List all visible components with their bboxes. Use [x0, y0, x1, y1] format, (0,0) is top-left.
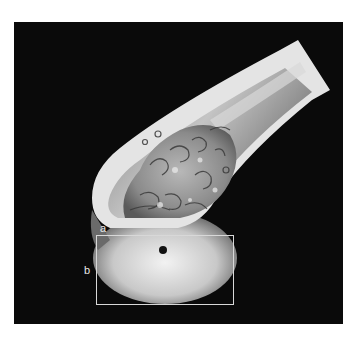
label-a: a	[100, 223, 106, 234]
label-b: b	[84, 265, 90, 276]
roi-box	[96, 235, 234, 305]
